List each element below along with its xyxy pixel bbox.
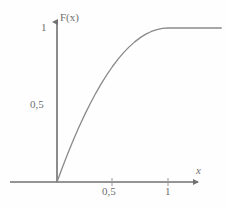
x-axis-title: x: [196, 165, 201, 176]
x-tick-label-0.5: 0,5: [102, 186, 116, 197]
cdf-curve: [57, 28, 221, 182]
x-tick-label-1: 1: [165, 186, 171, 197]
y-axis-title: F(x): [60, 12, 79, 23]
y-tick-label-1: 1: [41, 22, 47, 33]
y-tick-label-0.5: 0,5: [30, 99, 44, 110]
cdf-chart-figure: F(x) x 1 0,5 0,5 1: [0, 0, 226, 208]
